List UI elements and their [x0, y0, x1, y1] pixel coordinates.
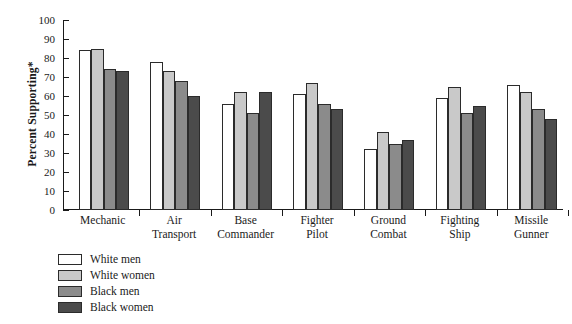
y-axis-tick-label: 40 — [15, 129, 55, 140]
bar — [234, 92, 247, 210]
legend-swatch — [58, 302, 82, 313]
bar — [331, 109, 344, 210]
bar — [364, 149, 377, 210]
x-axis-label-line1: Air — [166, 214, 181, 226]
bar — [116, 71, 129, 210]
bar-group — [222, 20, 272, 210]
bar — [306, 83, 319, 210]
bar — [377, 132, 390, 210]
bar — [247, 113, 260, 210]
bar — [104, 69, 117, 210]
legend-label: White men — [90, 254, 141, 266]
x-axis-label-line1: Fighter — [300, 214, 333, 226]
x-axis-label-line1: Fighting — [440, 214, 479, 226]
bar — [259, 92, 272, 210]
y-axis-tick-label: 100 — [15, 15, 55, 26]
x-axis-label: MissileGunner — [486, 213, 572, 241]
y-axis-tick-label: 0 — [15, 205, 55, 216]
bar-group — [293, 20, 343, 210]
chart-legend: White menWhite womenBlack menBlack women — [58, 252, 258, 316]
bar — [175, 81, 188, 210]
y-axis-tick-label: 20 — [15, 167, 55, 178]
bar — [507, 85, 520, 210]
bar — [545, 119, 558, 210]
bar — [163, 71, 176, 210]
bar — [532, 109, 545, 210]
bar — [188, 96, 201, 210]
y-axis-tick-label: 60 — [15, 91, 55, 102]
bar-chart: Percent Supporting* 01020304050607080901… — [0, 0, 572, 324]
x-axis-label-line1: Ground — [371, 214, 406, 226]
legend-item: Black women — [58, 300, 258, 315]
bar — [79, 50, 92, 210]
plot-area: 0102030405060708090100 — [63, 20, 563, 210]
bar-group — [364, 20, 414, 210]
x-axis-label-line1: Base — [234, 214, 256, 226]
legend-swatch — [58, 270, 82, 281]
bar-group — [436, 20, 486, 210]
bar — [150, 62, 163, 210]
x-axis-label-line2: Gunner — [486, 227, 572, 241]
y-axis-tick-label: 70 — [15, 72, 55, 83]
legend-item: White men — [58, 252, 258, 267]
bar — [473, 106, 486, 211]
y-axis-tick-label: 10 — [15, 186, 55, 197]
bar-groups — [64, 20, 563, 210]
legend-label: Black women — [90, 302, 154, 314]
y-axis-tick — [63, 210, 69, 211]
y-axis-tick-label: 80 — [15, 53, 55, 64]
y-axis-tick-label: 30 — [15, 148, 55, 159]
x-axis-labels: MechanicAirTransportBaseCommanderFighter… — [63, 213, 563, 253]
legend-swatch — [58, 254, 82, 265]
legend-item: Black men — [58, 284, 258, 299]
bar — [461, 113, 474, 210]
bar — [318, 104, 331, 210]
legend-item: White women — [58, 268, 258, 283]
bar-group — [507, 20, 557, 210]
x-axis-label-line1: Missile — [514, 214, 548, 226]
legend-label: White women — [90, 270, 155, 282]
bar-group — [79, 20, 129, 210]
bar — [402, 140, 415, 210]
bar — [91, 49, 104, 211]
y-axis-tick-label: 50 — [15, 110, 55, 121]
bar-group — [150, 20, 200, 210]
bar — [389, 144, 402, 211]
legend-swatch — [58, 286, 82, 297]
bar — [448, 87, 461, 211]
bar — [293, 94, 306, 210]
legend-label: Black men — [90, 286, 140, 298]
bar — [222, 104, 235, 210]
bar — [520, 92, 533, 210]
bar — [436, 98, 449, 210]
y-axis-tick-label: 90 — [15, 34, 55, 45]
x-axis-label-line1: Mechanic — [80, 214, 125, 226]
